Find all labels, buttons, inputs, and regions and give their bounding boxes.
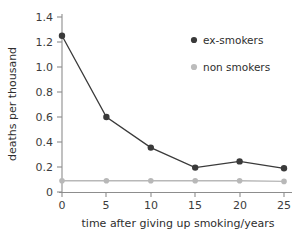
chart-legend: ex-smokers non smokers [191,34,270,73]
legend-marker-icon [191,37,197,43]
y-axis-title: deaths per thousand [6,47,19,161]
legend-marker-icon [191,64,197,70]
data-point [59,178,65,184]
data-point [192,178,198,184]
data-point [236,158,242,164]
x-tick-label-20: 20 [233,199,247,212]
x-tick-label-5: 5 [103,199,110,212]
legend-label-non-smokers: non smokers [203,61,270,73]
chart-canvas: 1.4 1.2 1.0 0.8 0.6 0.4 0.2 0 0 5 10 15 … [0,0,307,238]
y-axis-tick-labels: 1.4 1.2 1.0 0.8 0.6 0.4 0.2 0 [36,11,54,199]
y-tick-label-1.0: 1.0 [36,61,54,74]
legend-item-non-smokers[interactable]: non smokers [191,61,270,73]
data-point [281,165,287,171]
data-point [103,114,109,120]
data-point [148,178,154,184]
y-tick-label-1.2: 1.2 [36,36,54,49]
x-tick-label-0: 0 [59,199,66,212]
data-point [148,144,154,150]
non-smokers-line [62,181,284,182]
data-point [104,178,110,184]
x-tick-label-15: 15 [188,199,202,212]
y-tick-label-0.6: 0.6 [36,111,54,124]
x-axis-title: time after giving up smoking/years [82,217,275,230]
x-tick-label-10: 10 [144,199,158,212]
data-point [281,179,287,185]
data-point [237,178,243,184]
y-tick-label-0: 0 [46,186,53,199]
data-point [59,33,65,39]
legend-item-ex-smokers[interactable]: ex-smokers [191,34,263,46]
y-tick-label-0.2: 0.2 [36,161,54,174]
legend-label-ex-smokers: ex-smokers [203,34,263,46]
data-point [192,164,198,170]
chart-figure: 1.4 1.2 1.0 0.8 0.6 0.4 0.2 0 0 5 10 15 … [0,0,307,238]
series-non-smokers [59,178,287,184]
ex-smokers-points [59,33,287,172]
y-tick-label-0.8: 0.8 [36,86,54,99]
ex-smokers-line [62,36,284,169]
y-tick-label-1.4: 1.4 [36,11,54,24]
y-tick-label-0.4: 0.4 [36,136,54,149]
x-tick-label-25: 25 [277,199,291,212]
y-axis-ticks [57,17,62,192]
series-ex-smokers [59,33,287,172]
x-axis-tick-labels: 0 5 10 15 20 25 [59,199,292,212]
